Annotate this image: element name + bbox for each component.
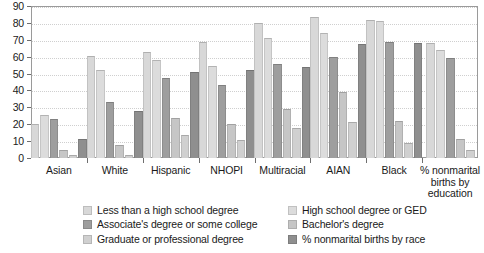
legend-label: Graduate or professional degree xyxy=(97,234,244,245)
bar xyxy=(87,56,95,158)
legend-item[interactable]: Graduate or professional degree xyxy=(83,232,288,247)
bar xyxy=(254,23,262,158)
x-tick-mark xyxy=(255,158,256,163)
legend-item[interactable]: Less than a high school degree xyxy=(83,203,288,218)
bar xyxy=(218,85,226,158)
legend-label: Associate's degree or some college xyxy=(97,219,257,230)
x-tick-mark xyxy=(366,158,367,163)
bar xyxy=(348,122,356,158)
legend-item[interactable]: Bachelor's degree xyxy=(288,218,479,233)
bar-cluster xyxy=(199,6,255,158)
bar-cluster xyxy=(422,6,478,158)
y-tick-label: 80 xyxy=(13,18,24,28)
bar xyxy=(143,52,151,158)
legend-label: Bachelor's degree xyxy=(302,219,384,230)
legend-swatch-icon xyxy=(83,220,92,229)
bar xyxy=(395,121,403,158)
y-tick-label: 70 xyxy=(13,35,24,45)
x-axis: AsianWhiteHispanicNHOPIMultiracialAIANBl… xyxy=(31,158,478,204)
bar xyxy=(171,118,179,158)
x-tick-mark xyxy=(310,158,311,163)
bar xyxy=(96,70,104,158)
bar xyxy=(40,115,48,158)
legend-swatch-icon xyxy=(83,206,92,215)
bar xyxy=(162,78,170,158)
bar xyxy=(320,33,328,158)
bar xyxy=(246,70,254,158)
legend-swatch-icon xyxy=(288,220,297,229)
bar-cluster xyxy=(255,6,311,158)
y-tick-label: 20 xyxy=(13,119,24,129)
y-tick-label: 30 xyxy=(13,102,24,112)
bar xyxy=(31,124,39,158)
x-tick-mark xyxy=(143,158,144,163)
y-tick-label: 40 xyxy=(13,85,24,95)
bar xyxy=(152,60,160,158)
bar xyxy=(264,38,272,158)
bar-cluster xyxy=(310,6,366,158)
x-tick-mark xyxy=(87,158,88,163)
y-tick-label: 60 xyxy=(13,52,24,62)
x-tick-mark xyxy=(422,158,423,163)
bar xyxy=(227,124,235,158)
bars-layer xyxy=(31,6,478,158)
y-tick-label: 10 xyxy=(13,136,24,146)
bar xyxy=(190,72,198,158)
legend-item[interactable]: Associate's degree or some college xyxy=(83,218,288,233)
y-tick-label: 0 xyxy=(18,153,24,163)
bar xyxy=(376,21,384,158)
bar xyxy=(466,150,475,158)
bar xyxy=(237,140,245,158)
bar-cluster xyxy=(143,6,199,158)
legend-label: % nonmarital births by race xyxy=(302,234,425,245)
legend-item[interactable]: High school degree or GED xyxy=(288,203,479,218)
legend-item[interactable]: % nonmarital births by race xyxy=(288,232,479,247)
bar xyxy=(404,143,412,158)
bar xyxy=(302,67,310,158)
x-axis-label: % nonmarital births by education xyxy=(410,165,484,200)
bar xyxy=(366,20,374,158)
bar xyxy=(358,44,366,158)
bar-cluster xyxy=(366,6,422,158)
bar xyxy=(283,109,291,158)
bar xyxy=(208,66,216,158)
bar xyxy=(59,150,67,158)
bar xyxy=(414,43,422,158)
bar xyxy=(181,135,189,158)
bar xyxy=(310,17,318,158)
bar-cluster xyxy=(87,6,143,158)
bar xyxy=(339,92,347,158)
bar xyxy=(446,58,455,158)
bar xyxy=(426,43,435,158)
bar xyxy=(199,42,207,158)
bar xyxy=(106,102,114,158)
bar xyxy=(456,139,465,158)
bar xyxy=(115,145,123,159)
bar xyxy=(50,119,58,158)
chart-root: 9080706050403020100 AsianWhiteHispanicNH… xyxy=(0,0,484,253)
y-tick-label: 90 xyxy=(13,1,24,11)
legend-swatch-icon xyxy=(288,206,297,215)
y-tick-label: 50 xyxy=(13,69,24,79)
bar xyxy=(78,139,86,158)
chart-legend: Less than a high school degreeHigh schoo… xyxy=(83,203,479,249)
bar xyxy=(329,57,337,158)
legend-label: High school degree or GED xyxy=(302,205,427,216)
x-tick-mark xyxy=(199,158,200,163)
bar-cluster xyxy=(31,6,87,158)
bar xyxy=(385,42,393,158)
legend-swatch-icon xyxy=(83,235,92,244)
bar xyxy=(273,64,281,158)
y-axis: 9080706050403020100 xyxy=(0,0,31,164)
bar xyxy=(134,111,142,158)
bar xyxy=(292,128,300,158)
bar xyxy=(436,50,445,158)
legend-swatch-icon xyxy=(288,235,297,244)
legend-label: Less than a high school degree xyxy=(97,205,238,216)
